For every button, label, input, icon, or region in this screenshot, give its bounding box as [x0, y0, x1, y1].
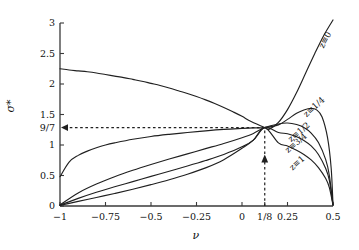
x-tick-label: 1/8 — [257, 212, 272, 222]
y-tick-label: 0 — [49, 201, 55, 211]
y-tick-label: 1 — [49, 140, 55, 150]
x-tick-label: −0.25 — [182, 212, 211, 222]
y-tick-label: 2 — [49, 79, 55, 89]
x-axis-title: ν — [193, 230, 200, 241]
curve-paths — [60, 20, 333, 205]
y-tick-label: 2.5 — [40, 49, 55, 59]
y-tick-label: 9/7 — [40, 123, 55, 133]
x-tick-label: −0.75 — [91, 212, 120, 222]
x-tick-label: −1 — [53, 212, 67, 222]
x-tick-label: −0.5 — [139, 212, 162, 222]
chart-figure: σ* ν 00.519/71.522.53 −1−0.75−0.5−0.2501… — [0, 0, 359, 250]
y-axis-title: σ* — [5, 99, 16, 112]
y-tick-label: 1.5 — [40, 110, 55, 120]
x-tick-label: 0.5 — [325, 212, 340, 222]
x-tick-label: 0.25 — [277, 212, 298, 222]
x-tick-label: 0 — [239, 212, 245, 222]
y-tick-label: 0.5 — [40, 171, 55, 181]
curve-z-0 — [60, 20, 333, 129]
axes — [60, 23, 333, 206]
y-tick-label: 3 — [49, 18, 55, 28]
